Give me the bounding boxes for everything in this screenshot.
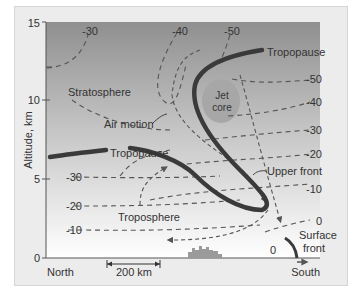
isotherm-label-left-1: -20: [66, 200, 82, 212]
troposphere-label: Troposphere: [118, 211, 180, 223]
tropopause-lower-label: Tropopause: [110, 147, 168, 159]
x-label-north: North: [47, 266, 74, 278]
stratosphere-label: Stratosphere: [68, 86, 131, 98]
isotherm-label-right-3: -20: [306, 148, 322, 160]
y-tick-15: 15: [28, 17, 40, 29]
y-tick-0: 0: [34, 252, 40, 264]
jet-core-label-2: core: [212, 102, 232, 113]
isotherm-label-right-2: -30: [306, 124, 322, 136]
air-motion-label: Air motion: [104, 118, 154, 130]
y-tick-5: 5: [34, 173, 40, 185]
isotherm-label-right-5: 0: [316, 215, 322, 227]
tropopause-upper-label: Tropopause: [267, 46, 325, 58]
isotherm-label-right-1: -40: [306, 96, 322, 108]
surface-front-label-1: Surface: [299, 229, 337, 241]
isotherm-label-top-right: -50: [224, 25, 240, 37]
isotherm-label-left-0: -30: [66, 171, 82, 183]
isotherm-label-left-2: -10: [66, 224, 82, 236]
jet-core: [202, 79, 240, 123]
isotherm-label-top-left: -30: [82, 25, 98, 37]
y-axis-label: Altitude, km: [22, 111, 34, 168]
jet-core-label-1: Jet: [215, 90, 229, 101]
jet-stream-cross-section-diagram: 15 10 5 0 Altitude, km North South 200 k…: [0, 0, 359, 293]
isotherm-label-right-4: -10: [306, 183, 322, 195]
isotherm-label-top-mid: -40: [172, 25, 188, 37]
y-tick-10: 10: [28, 94, 40, 106]
surface-front-label-2: front: [303, 242, 325, 254]
upper-front-label: Upper front: [267, 165, 322, 177]
isotherm-label-right-0: -50: [306, 73, 322, 85]
scale-bar-label: 200 km: [116, 266, 152, 278]
x-label-south: South: [291, 266, 320, 278]
isotherm-label-bottom-zero: 0: [270, 244, 276, 256]
